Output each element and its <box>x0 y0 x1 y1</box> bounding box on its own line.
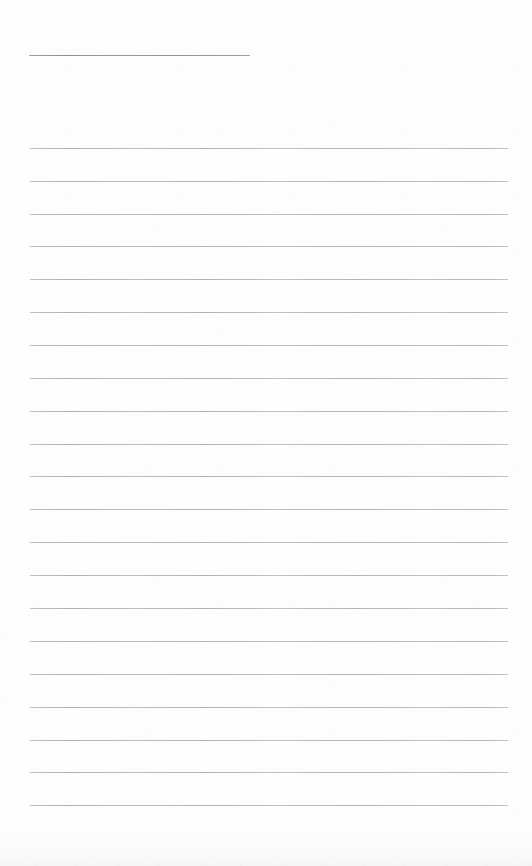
scanned-page <box>0 0 532 866</box>
ruled-line <box>30 575 508 576</box>
ruled-line <box>30 312 508 313</box>
ruled-line <box>30 246 508 247</box>
ruled-line <box>30 181 508 182</box>
ruled-line <box>30 542 508 543</box>
ruled-line <box>30 476 508 477</box>
ruled-line <box>30 345 508 346</box>
ruled-line <box>30 740 508 741</box>
ruled-line <box>30 509 508 510</box>
ruled-line <box>30 444 508 445</box>
ruled-line <box>30 378 508 379</box>
ruled-line <box>30 641 508 642</box>
ruled-line <box>30 707 508 708</box>
ruled-line <box>30 411 508 412</box>
ruled-line <box>30 608 508 609</box>
scan-edge-shadow <box>0 832 532 866</box>
ruled-line <box>30 805 508 806</box>
ruled-line <box>30 772 508 773</box>
ruled-line <box>30 279 508 280</box>
title-rule <box>29 55 250 56</box>
paper-texture <box>0 0 532 866</box>
ruled-line <box>30 674 508 675</box>
ruled-line <box>30 214 508 215</box>
ruled-line <box>30 148 508 149</box>
